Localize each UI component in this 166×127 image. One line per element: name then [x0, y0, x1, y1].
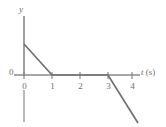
x-axis-label-unit: (s) [146, 67, 156, 77]
x-tick-label-3: 3 [104, 82, 113, 91]
plot-canvas [0, 0, 166, 127]
x-tick-label-0: 0 [20, 82, 29, 91]
x-tick-label-4: 4 [128, 82, 137, 91]
origin-label: 0 [9, 68, 14, 77]
x-tick-label-2: 2 [76, 82, 85, 91]
y-axis-label: y [19, 5, 23, 14]
x-tick-label-1: 1 [48, 82, 57, 91]
graph-figure: y t (s) 0 0 1 2 3 4 [0, 0, 166, 127]
x-axis-label: t (s) [141, 68, 155, 77]
